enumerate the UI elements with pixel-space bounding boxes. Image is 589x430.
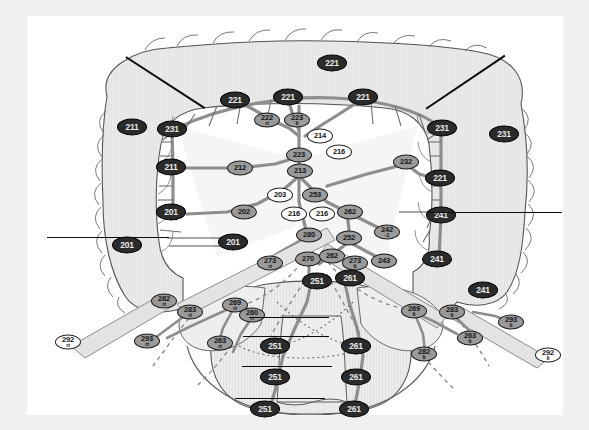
lymph-node-221[interactable]: 221	[317, 55, 347, 72]
lymph-node-292-rt[interactable]: 292rt	[55, 335, 81, 350]
lymph-node-243[interactable]: 243	[371, 254, 397, 269]
lymph-node-number: 253	[309, 192, 321, 199]
lymph-node-number: 223	[293, 152, 305, 159]
lymph-node-side: rt	[268, 264, 272, 269]
lymph-node-221[interactable]: 221	[425, 170, 455, 187]
lymph-node-263-rt[interactable]: 263rt	[207, 336, 233, 351]
lymph-node-side: lt	[547, 356, 550, 361]
lymph-node-201[interactable]: 201	[112, 237, 142, 254]
lymph-node-260-rt[interactable]: 260rt	[239, 308, 265, 323]
lymph-node-292-lt[interactable]: 292lt	[535, 348, 561, 363]
lymph-node-side: rt	[66, 343, 70, 348]
lymph-node-number: 216	[316, 211, 328, 218]
lymph-node-number: 214	[314, 133, 326, 140]
lymph-node-261[interactable]: 261	[335, 270, 365, 287]
lymph-node-side: rt	[162, 302, 166, 307]
lymph-node-number: 211	[164, 163, 177, 171]
rule-pelvis-2	[243, 336, 329, 337]
lymph-node-number: 241	[430, 255, 444, 263]
lymph-node-202[interactable]: 202	[231, 205, 257, 220]
lymph-node-side: lt	[354, 264, 357, 269]
lymph-node-216[interactable]: 216	[326, 145, 352, 160]
lymph-node-241[interactable]: 241	[468, 282, 498, 299]
lymph-node-270[interactable]: 270	[295, 252, 321, 267]
lymph-node-number: 252	[343, 235, 355, 242]
lymph-node-212[interactable]: 212	[227, 161, 253, 176]
lymph-node-number: 251	[268, 342, 282, 350]
lymph-node-262[interactable]: 262	[337, 205, 363, 220]
lymph-node-213[interactable]: 213	[287, 164, 313, 179]
lymph-node-number: 262	[326, 253, 338, 260]
lymph-node-221[interactable]: 221	[220, 92, 250, 109]
lymph-node-number: 213	[294, 168, 306, 175]
lymph-node-214[interactable]: 214	[307, 129, 333, 144]
lymph-node-251[interactable]: 251	[260, 369, 290, 386]
lymph-node-number: 261	[349, 373, 363, 381]
lymph-node-221[interactable]: 221	[273, 89, 303, 106]
lymph-node-number: 262	[344, 209, 356, 216]
lymph-node-211[interactable]: 211	[117, 119, 147, 136]
figure-plate: 221221221221222rt223lt214216223213212232…	[27, 16, 563, 415]
lymph-node-side: rt	[233, 306, 237, 311]
lymph-node-side: rt	[265, 121, 269, 126]
lymph-node-number: 203	[274, 192, 286, 199]
lymph-node-216[interactable]: 216	[309, 207, 335, 222]
lymph-node-280[interactable]: 280	[296, 228, 322, 243]
lymph-node-231[interactable]: 231	[489, 126, 519, 143]
lymph-node-232[interactable]: 232	[393, 155, 419, 170]
rule-pelvis-3	[242, 366, 332, 367]
lymph-node-number: 231	[165, 125, 179, 133]
lymph-node-number: 221	[356, 93, 370, 101]
lymph-node-211[interactable]: 211	[156, 159, 186, 176]
lymph-node-231[interactable]: 231	[427, 120, 457, 137]
lymph-node-number: 251	[310, 277, 324, 285]
lymph-node-number: 261	[349, 342, 363, 350]
lymph-node-283-lt[interactable]: 283lt	[439, 305, 465, 320]
lymph-node-261[interactable]: 261	[341, 338, 371, 355]
lymph-node-251[interactable]: 251	[302, 273, 332, 290]
lymph-node-number: 232	[400, 159, 412, 166]
lymph-node-261[interactable]: 261	[339, 401, 369, 418]
lymph-node-231[interactable]: 231	[157, 121, 187, 138]
lymph-node-241[interactable]: 241	[426, 207, 456, 224]
lymph-node-251[interactable]: 251	[260, 338, 290, 355]
lymph-node-242-1[interactable]: 242-1	[374, 225, 400, 240]
lymph-node-263-lt[interactable]: 263lt	[457, 331, 483, 346]
lymph-node-number: 241	[476, 286, 490, 294]
lymph-node-number: 221	[228, 96, 242, 104]
lymph-node-number: 251	[268, 373, 282, 381]
lymph-node-number: 201	[226, 238, 240, 246]
lymph-node-221[interactable]: 221	[348, 89, 378, 106]
lymph-node-216[interactable]: 216	[281, 207, 307, 222]
lymph-node-293-rt[interactable]: 293rt	[134, 334, 160, 349]
lymph-node-241[interactable]: 241	[422, 251, 452, 268]
lymph-node-number: 202	[238, 209, 250, 216]
lymph-node-252[interactable]: 252	[336, 231, 362, 246]
lymph-node-number: 216	[288, 211, 300, 218]
lymph-node-253[interactable]: 253	[302, 188, 328, 203]
lymph-node-side: lt	[451, 313, 454, 318]
rectum	[277, 316, 347, 405]
lymph-node-201[interactable]: 201	[218, 234, 248, 251]
lymph-node-number: 221	[325, 59, 339, 67]
rule-pelvis-4	[235, 398, 325, 399]
lymph-node-282-lt[interactable]: 282lt	[411, 347, 437, 362]
lymph-node-283-rt[interactable]: 283rt	[177, 305, 203, 320]
lymph-node-261[interactable]: 261	[341, 369, 371, 386]
lymph-node-282-rt[interactable]: 282rt	[151, 294, 177, 309]
lymph-node-273-rt[interactable]: 273rt	[257, 256, 283, 271]
lymph-node-number: 221	[281, 93, 295, 101]
lymph-node-269-lt[interactable]: 269lt	[401, 304, 427, 319]
lymph-node-222-rt[interactable]: 222rt	[254, 113, 280, 128]
lymph-node-223-lt[interactable]: 223lt	[284, 113, 310, 128]
lymph-node-203[interactable]: 203	[267, 188, 293, 203]
lymph-node-201[interactable]: 201	[156, 204, 186, 221]
lymph-node-number: 280	[303, 232, 315, 239]
lymph-node-side: lt	[423, 355, 426, 360]
lymph-node-223[interactable]: 223	[286, 148, 312, 163]
lymph-node-251[interactable]: 251	[250, 401, 280, 418]
lymph-node-273-lt[interactable]: 273lt	[342, 256, 368, 271]
lymph-node-number: 270	[302, 256, 314, 263]
lymph-node-side: lt	[510, 323, 513, 328]
lymph-node-293-lt[interactable]: 293lt	[498, 315, 524, 330]
